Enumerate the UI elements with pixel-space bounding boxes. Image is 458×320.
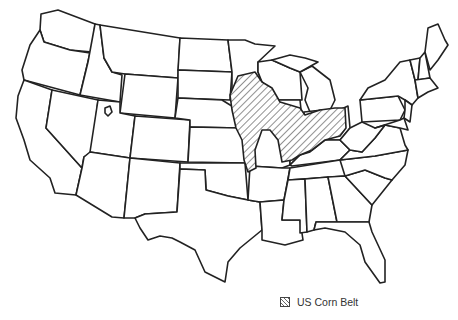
- state-arkansas: [248, 166, 290, 202]
- state-wyoming: [120, 74, 178, 118]
- state-colorado: [130, 116, 190, 162]
- corn-belt-hatch-swatch-icon: [280, 297, 290, 307]
- legend: US Corn Belt: [280, 296, 358, 308]
- state-north-dakota: [178, 38, 232, 72]
- legend-label: US Corn Belt: [297, 296, 358, 308]
- us-map: [0, 0, 458, 290]
- state-arizona: [76, 152, 130, 218]
- state-maine: [425, 24, 448, 70]
- state-south-dakota: [178, 70, 232, 100]
- state-kansas: [188, 127, 246, 163]
- state-new-mexico: [124, 158, 180, 218]
- state-florida: [314, 222, 385, 283]
- state-michigan: [300, 66, 335, 112]
- state-montana: [100, 25, 180, 78]
- state-new-jersey: [404, 100, 412, 122]
- state-massachusetts: [415, 78, 438, 98]
